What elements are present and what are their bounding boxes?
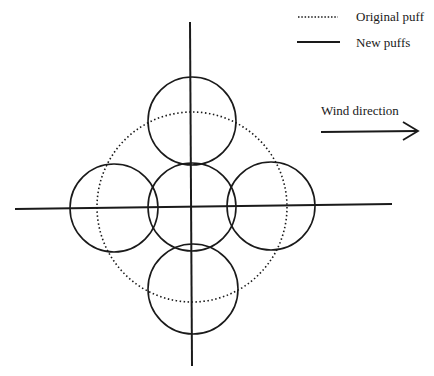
horizontal-axis	[15, 204, 392, 209]
legend-label-new-puffs: New puffs	[356, 35, 410, 50]
puff-splitting-diagram: Original puff New puffs Wind direction	[0, 0, 434, 376]
legend: Original puff New puffs	[297, 9, 425, 50]
legend-label-original-puff: Original puff	[356, 9, 425, 24]
vertical-axis	[190, 22, 192, 366]
new-puff-top	[148, 77, 236, 165]
wind-direction: Wind direction	[321, 103, 418, 140]
wind-direction-label: Wind direction	[321, 103, 399, 118]
new-puff-bottom	[148, 244, 238, 334]
wind-arrow-shaft	[321, 131, 417, 132]
